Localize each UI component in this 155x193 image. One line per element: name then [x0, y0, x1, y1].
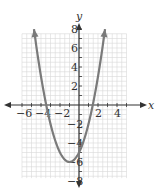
graph: x y −6−4−2248642−2−4−6−8 — [0, 0, 155, 193]
x-tick-label: 2 — [95, 107, 102, 120]
y-tick-label: −2 — [67, 118, 83, 131]
x-axis-label: x — [148, 99, 155, 112]
y-tick-label: 8 — [71, 23, 78, 36]
y-tick-label: 4 — [71, 61, 78, 74]
x-axis-left-arrow-icon — [4, 102, 11, 108]
x-tick-label: 4 — [114, 107, 121, 120]
x-axis-right-arrow-icon — [140, 102, 147, 108]
x-tick-label: −6 — [16, 107, 32, 120]
y-tick-label: 6 — [71, 42, 78, 55]
y-axis-label: y — [75, 10, 83, 23]
y-tick-label: 2 — [71, 80, 78, 93]
y-tick-label: −8 — [67, 175, 83, 188]
